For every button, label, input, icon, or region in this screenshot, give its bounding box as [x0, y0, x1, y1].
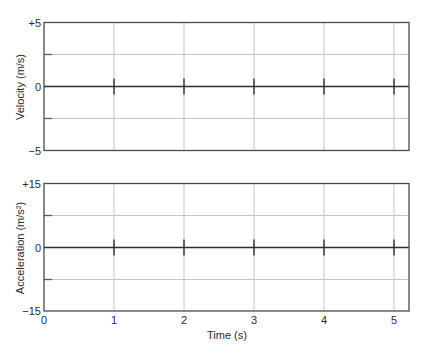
time-axis-label: Time (s): [207, 329, 247, 341]
xtick-5: 5: [391, 314, 397, 326]
xtick-0: 0: [41, 314, 47, 326]
velocity-ytick-top: +5: [28, 17, 41, 29]
xtick-2: 2: [181, 314, 187, 326]
motion-graphs-figure: +5 0 −5 Velocity (m/s) +15 0: [0, 0, 428, 355]
velocity-panel: +5 0 −5 Velocity (m/s): [14, 17, 409, 157]
velocity-ytick-zero: 0: [35, 81, 41, 93]
velocity-axis-label: Velocity (m/s): [14, 54, 26, 120]
xtick-4: 4: [321, 314, 327, 326]
time-axis: 0 1 2 3 4 5 Time (s): [41, 314, 397, 341]
xtick-3: 3: [251, 314, 257, 326]
velocity-ytick-bottom: −5: [28, 145, 41, 157]
acceleration-ytick-zero: 0: [35, 242, 41, 254]
acceleration-axis-label: Acceleration (m/s²): [14, 202, 26, 294]
acceleration-ytick-bottom: −15: [22, 305, 41, 317]
xtick-1: 1: [111, 314, 117, 326]
acceleration-ytick-top: +15: [22, 178, 41, 190]
acceleration-panel: +15 0 −15 Acceleration (m/s²): [14, 178, 409, 318]
